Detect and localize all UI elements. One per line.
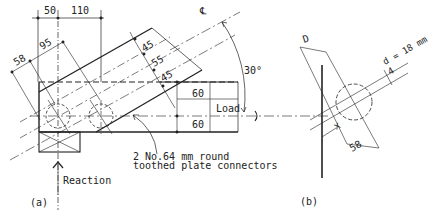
dim-b-d-value: = 18 mm — [391, 34, 429, 62]
reaction-label: Reaction — [63, 175, 111, 186]
dim-diag-55: 55 — [150, 53, 166, 69]
connection-diagram: 50 110 58 95 45 55 45 60 60 30° Load ℄ R… — [0, 0, 435, 217]
centerline-symbol: ℄ — [199, 5, 207, 16]
angle-label: 30° — [244, 65, 262, 76]
connector-leader — [133, 115, 157, 154]
dim-b-D: D — [301, 33, 310, 45]
dim-diag-95: 95 — [38, 36, 54, 52]
dim-side-60a: 60 — [192, 88, 204, 99]
figure-b-label: (b) — [300, 196, 318, 207]
figure-a — [10, 10, 330, 210]
note-line-2: toothed plate connectors — [133, 160, 278, 171]
dim-side-60b: 60 — [192, 119, 204, 130]
dim-b-d-num: d — [381, 55, 391, 66]
figure-b — [300, 47, 408, 178]
dim-top-110: 110 — [71, 5, 89, 16]
horizontal-member — [30, 82, 330, 132]
reaction-arrow-icon — [53, 162, 63, 195]
dim-diag-58: 58 — [12, 52, 28, 68]
figure-a-label: (a) — [30, 197, 48, 208]
dim-top-50: 50 — [44, 5, 56, 16]
load-label: Load — [216, 103, 240, 114]
dim-diag-45b: 45 — [159, 68, 175, 84]
dim-b-58: 58 — [348, 138, 364, 154]
support-block — [39, 132, 80, 152]
b-dimension-lines — [300, 47, 408, 148]
dim-diag-45a: 45 — [140, 38, 156, 54]
